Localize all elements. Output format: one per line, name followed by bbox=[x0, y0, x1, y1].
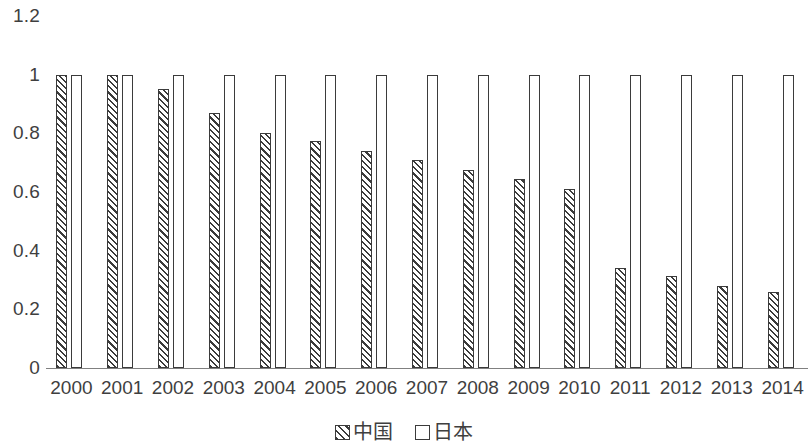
bar-china-2009 bbox=[514, 179, 525, 368]
x-axis-tick-label: 2010 bbox=[554, 377, 605, 399]
bar-japan-2002 bbox=[173, 75, 184, 368]
y-axis-tick-label: 0.6 bbox=[13, 182, 40, 201]
x-axis-tick-label: 2011 bbox=[605, 377, 656, 399]
bar-china-2007 bbox=[412, 160, 423, 368]
y-axis-tick-label: 0 bbox=[29, 358, 40, 377]
bar-japan-2004 bbox=[275, 75, 286, 368]
bar-japan-2012 bbox=[681, 75, 692, 368]
bar-china-2002 bbox=[158, 89, 169, 368]
x-axis-tick-label: 2013 bbox=[706, 377, 757, 399]
x-axis-baseline bbox=[46, 368, 808, 369]
bar-china-2008 bbox=[463, 170, 474, 368]
legend-label-japan: 日本 bbox=[433, 422, 473, 442]
bar-china-2006 bbox=[361, 151, 372, 368]
bar-china-2011 bbox=[615, 268, 626, 368]
bar-china-2005 bbox=[310, 141, 321, 368]
y-axis-tick-label: 1.2 bbox=[13, 6, 40, 25]
x-axis-tick-label: 2014 bbox=[757, 377, 808, 399]
bar-japan-2005 bbox=[325, 75, 336, 368]
legend-swatch-china-icon bbox=[335, 425, 350, 440]
x-axis-tick-label: 2004 bbox=[249, 377, 300, 399]
y-axis-tick-label: 0.4 bbox=[13, 241, 40, 260]
bar-japan-2008 bbox=[478, 75, 489, 368]
bar-japan-2006 bbox=[376, 75, 387, 368]
x-axis-tick-label: 2008 bbox=[452, 377, 503, 399]
bar-japan-2000 bbox=[71, 75, 82, 368]
x-axis-tick-label: 2006 bbox=[351, 377, 402, 399]
bar-china-2000 bbox=[56, 75, 67, 368]
x-axis: 2000200120022003200420052006200720082009… bbox=[46, 372, 808, 404]
y-axis-tick-label: 1 bbox=[29, 65, 40, 84]
x-axis-tick-label: 2007 bbox=[402, 377, 453, 399]
bar-japan-2010 bbox=[579, 75, 590, 368]
bar-japan-2007 bbox=[427, 75, 438, 368]
legend-item-japan: 日本 bbox=[415, 422, 473, 442]
chart-legend: 中国 日本 bbox=[0, 416, 808, 448]
legend-label-china: 中国 bbox=[353, 422, 393, 442]
legend-swatch-japan-icon bbox=[415, 425, 430, 440]
bar-japan-2003 bbox=[224, 75, 235, 368]
bar-japan-2001 bbox=[122, 75, 133, 368]
bar-japan-2011 bbox=[630, 75, 641, 368]
bar-chart: 00.20.40.60.811.2 2000200120022003200420… bbox=[0, 0, 808, 448]
x-axis-tick-label: 2000 bbox=[46, 377, 97, 399]
bar-china-2001 bbox=[107, 75, 118, 368]
bar-china-2004 bbox=[260, 133, 271, 368]
bar-japan-2009 bbox=[529, 75, 540, 368]
bar-china-2010 bbox=[564, 189, 575, 368]
bar-japan-2013 bbox=[732, 75, 743, 368]
bar-china-2003 bbox=[209, 113, 220, 368]
y-axis-tick-label: 0.8 bbox=[13, 123, 40, 142]
bar-china-2014 bbox=[768, 292, 779, 368]
plot-area bbox=[46, 0, 808, 380]
x-axis-tick-label: 2012 bbox=[656, 377, 707, 399]
bar-china-2012 bbox=[666, 276, 677, 368]
x-axis-tick-label: 2005 bbox=[300, 377, 351, 399]
x-axis-tick-label: 2003 bbox=[198, 377, 249, 399]
bar-china-2013 bbox=[717, 286, 728, 368]
y-axis: 00.20.40.60.811.2 bbox=[0, 0, 46, 380]
x-axis-tick-label: 2002 bbox=[148, 377, 199, 399]
x-axis-tick-label: 2001 bbox=[97, 377, 148, 399]
y-axis-tick-label: 0.2 bbox=[13, 299, 40, 318]
legend-item-china: 中国 bbox=[335, 422, 393, 442]
bar-japan-2014 bbox=[783, 75, 794, 368]
x-axis-tick-label: 2009 bbox=[503, 377, 554, 399]
